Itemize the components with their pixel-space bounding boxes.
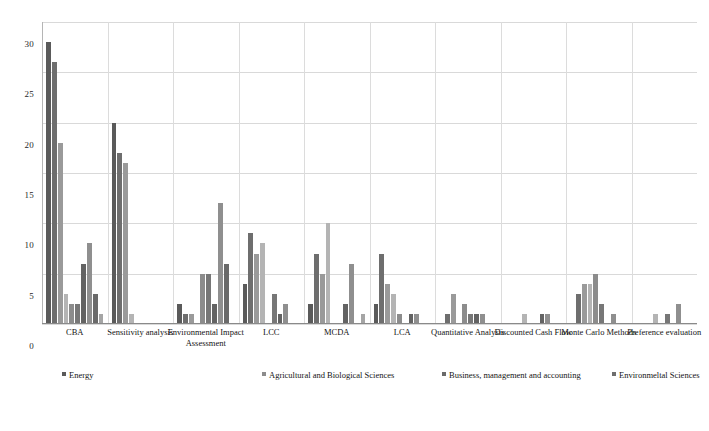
y-axis-tick-label: 25 bbox=[25, 89, 34, 99]
legend-label: Business, management and accounting bbox=[449, 370, 581, 380]
bar bbox=[374, 304, 379, 324]
bar-group bbox=[505, 22, 563, 324]
y-axis-tick-label: 0 bbox=[29, 341, 34, 351]
y-axis: 051015202530 bbox=[0, 22, 42, 324]
bar bbox=[379, 254, 384, 324]
bar bbox=[206, 274, 211, 324]
bar-group bbox=[177, 22, 235, 324]
bar bbox=[123, 163, 128, 324]
bar bbox=[599, 304, 604, 324]
bar bbox=[308, 304, 313, 324]
gridline-horizontal bbox=[42, 324, 697, 325]
x-axis-line bbox=[42, 323, 697, 324]
bar bbox=[248, 233, 253, 324]
y-axis-tick-label: 5 bbox=[29, 291, 34, 301]
x-axis-labels: CBASensitivity analysisEnvironmental Imp… bbox=[42, 327, 697, 369]
bar bbox=[212, 304, 217, 324]
bar-group bbox=[570, 22, 628, 324]
bar bbox=[576, 294, 581, 324]
bar-group bbox=[308, 22, 366, 324]
bar bbox=[462, 304, 467, 324]
y-axis-tick-label: 15 bbox=[25, 190, 34, 200]
y-axis-tick-label: 30 bbox=[25, 39, 34, 49]
y-axis-tick-label: 10 bbox=[25, 240, 34, 250]
bar bbox=[224, 264, 229, 324]
bar-groups bbox=[42, 22, 697, 324]
bar bbox=[320, 274, 325, 324]
bar bbox=[593, 274, 598, 324]
bar bbox=[451, 294, 456, 324]
x-axis-tick-label: Preference evaluation bbox=[622, 327, 706, 338]
bar bbox=[75, 304, 80, 324]
legend-item[interactable]: Energy bbox=[62, 370, 262, 380]
plot-area bbox=[42, 22, 697, 324]
chart-legend: EnergyAgricultural and Biological Scienc… bbox=[62, 366, 702, 383]
bar-chart: 051015202530 CBASensitivity analysisEnvi… bbox=[0, 0, 709, 431]
legend-swatch-icon bbox=[612, 372, 616, 376]
bar bbox=[385, 284, 390, 324]
bar bbox=[46, 42, 51, 324]
legend-label: Environmeltal Sciences bbox=[619, 370, 700, 380]
bar bbox=[93, 294, 98, 324]
legend-swatch-icon bbox=[62, 372, 66, 376]
bar-group bbox=[46, 22, 104, 324]
bar bbox=[177, 304, 182, 324]
bar bbox=[58, 143, 63, 324]
legend-item[interactable]: Environmeltal Sciences bbox=[612, 370, 709, 380]
bar bbox=[87, 243, 92, 324]
bar bbox=[588, 284, 593, 324]
bar bbox=[391, 294, 396, 324]
legend-item[interactable]: Agricultural and Biological Sciences bbox=[262, 370, 442, 380]
bar bbox=[200, 274, 205, 324]
legend-label: Agricultural and Biological Sciences bbox=[269, 370, 394, 380]
bar-group bbox=[636, 22, 694, 324]
bar bbox=[112, 123, 117, 324]
bar bbox=[243, 284, 248, 324]
bar-group bbox=[374, 22, 432, 324]
bar-group bbox=[439, 22, 497, 324]
bar bbox=[343, 304, 348, 324]
bar bbox=[314, 254, 319, 324]
bar bbox=[676, 304, 681, 324]
bar bbox=[326, 223, 331, 324]
bar bbox=[69, 304, 74, 324]
bar-group bbox=[243, 22, 301, 324]
y-axis-tick-label: 20 bbox=[25, 140, 34, 150]
bar bbox=[283, 304, 288, 324]
legend-swatch-icon bbox=[262, 372, 266, 376]
legend-item[interactable]: Business, management and accounting bbox=[442, 370, 612, 380]
bar bbox=[117, 153, 122, 324]
bar bbox=[218, 203, 223, 324]
bar bbox=[64, 294, 69, 324]
bar bbox=[260, 243, 265, 324]
bar-group bbox=[112, 22, 170, 324]
bar bbox=[52, 62, 57, 324]
legend-label: Energy bbox=[69, 370, 93, 380]
bar bbox=[272, 294, 277, 324]
bar bbox=[582, 284, 587, 324]
bar bbox=[254, 254, 259, 324]
bar bbox=[81, 264, 86, 324]
bar bbox=[349, 264, 354, 324]
legend-swatch-icon bbox=[442, 372, 446, 376]
